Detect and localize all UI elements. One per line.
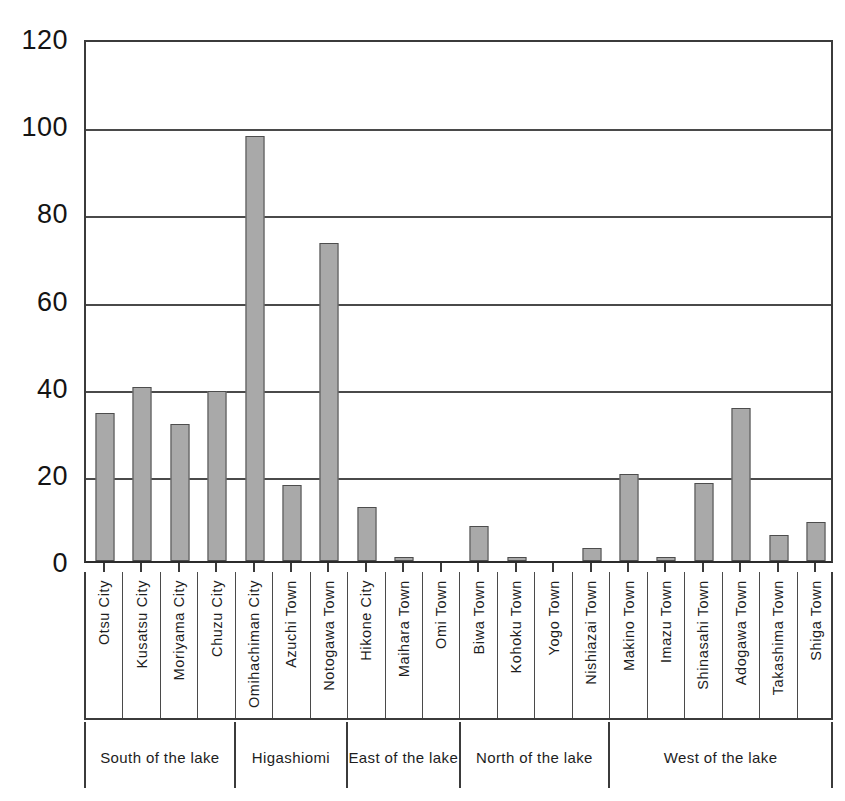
x-axis-category-cell: Hikone City [348, 572, 385, 718]
bar[interactable] [507, 557, 526, 561]
x-tick [365, 563, 367, 572]
bar-series [86, 42, 831, 561]
x-axis-category-labels: Otsu CityKusatsu CityMoriyama CityChuzu … [84, 572, 833, 720]
x-axis-category-cell: Chuzu City [198, 572, 235, 718]
x-axis-category-label: Maihara Town [396, 580, 412, 677]
x-axis-category-cell: Imazu Town [648, 572, 685, 718]
x-axis-category-cell: Notogawa Town [311, 572, 348, 718]
y-tick-label: 120 [21, 27, 68, 54]
bar-slot [461, 42, 498, 561]
x-axis-category-cell: Omihachiman City [236, 572, 273, 718]
x-axis-category-cell: Omi Town [423, 572, 460, 718]
x-axis-group-label: North of the lake [461, 749, 609, 766]
x-axis-category-label: Yogo Town [546, 580, 562, 656]
bar-slot [161, 42, 198, 561]
bar[interactable] [245, 136, 264, 561]
x-axis-category-label: Adogawa Town [733, 580, 749, 685]
chart-figure: 020406080100120 Otsu CityKusatsu CityMor… [0, 0, 845, 801]
x-axis-category-label: Biwa Town [471, 580, 487, 654]
x-axis-group-labels: South of the lakeHigashiomiEast of the l… [84, 722, 833, 788]
bar-slot [648, 42, 685, 561]
bar-slot [198, 42, 235, 561]
x-axis-category-label: Shinasahi Town [695, 580, 711, 690]
x-axis-category-label: Chuzu City [209, 580, 225, 657]
x-axis-category-label: Moriyama City [171, 580, 187, 680]
bar[interactable] [357, 507, 376, 561]
x-tick [140, 563, 142, 572]
x-axis-category-label: Takashima Town [770, 580, 786, 695]
x-axis-category-label: Shiga Town [808, 580, 824, 661]
bar-slot [610, 42, 647, 561]
bar[interactable] [657, 557, 676, 561]
bar-slot [386, 42, 423, 561]
x-tick [215, 563, 217, 572]
y-tick-label: 60 [37, 288, 68, 315]
x-tick [627, 563, 629, 572]
x-tick [702, 563, 704, 572]
x-axis-category-label: Nishiazai Town [583, 580, 599, 685]
x-tick [664, 563, 666, 572]
x-axis-category-cell: Takashima Town [760, 572, 797, 718]
x-axis-category-cell: Adogawa Town [723, 572, 760, 718]
bar-slot [798, 42, 835, 561]
x-axis-category-label: Omihachiman City [246, 580, 262, 708]
y-tick-label: 0 [52, 550, 68, 577]
x-axis-category-cell: Shiga Town [798, 572, 835, 718]
x-axis-category-cell: Kohoku Town [498, 572, 535, 718]
bar[interactable] [732, 408, 751, 561]
bar[interactable] [395, 557, 414, 561]
y-axis: 020406080100120 [0, 0, 78, 801]
y-tick-label: 20 [37, 462, 68, 489]
bar-slot [86, 42, 123, 561]
bar[interactable] [620, 474, 639, 561]
y-tick-label: 80 [37, 201, 68, 228]
x-axis-category-cell: Yogo Town [535, 572, 572, 718]
x-tick [402, 563, 404, 572]
x-axis-category-cell: Azuchi Town [273, 572, 310, 718]
x-axis-category-cell: Biwa Town [461, 572, 498, 718]
bar[interactable] [133, 387, 152, 561]
x-tick [515, 563, 517, 572]
x-tick [327, 563, 329, 572]
bar[interactable] [95, 413, 114, 561]
bar-slot [273, 42, 310, 561]
bar[interactable] [582, 548, 601, 561]
x-tick [777, 563, 779, 572]
bar-slot [685, 42, 722, 561]
bar[interactable] [807, 522, 826, 561]
x-tick [552, 563, 554, 572]
x-tick [103, 563, 105, 572]
x-axis-group-label: East of the lake [348, 749, 458, 766]
x-axis-category-cell: Makino Town [610, 572, 647, 718]
x-axis-category-label: Notogawa Town [321, 580, 337, 691]
x-tick [814, 563, 816, 572]
x-axis-group-cell: South of the lake [84, 722, 234, 788]
x-axis-category-label: Kohoku Town [508, 580, 524, 673]
bar[interactable] [470, 526, 489, 561]
x-tick [290, 563, 292, 572]
x-axis-category-label: Imazu Town [658, 580, 674, 663]
y-tick-label: 100 [21, 114, 68, 141]
bar-slot [123, 42, 160, 561]
x-axis-group-cell: North of the lake [459, 722, 609, 788]
bar-slot [535, 42, 572, 561]
bar[interactable] [694, 483, 713, 561]
bar[interactable] [282, 485, 301, 561]
plot-area [84, 40, 833, 563]
x-axis-category-cell: Moriyama City [161, 572, 198, 718]
x-axis-group-cell: Higashiomi [234, 722, 346, 788]
bar[interactable] [320, 243, 339, 561]
bar-slot [723, 42, 760, 561]
x-axis-category-label: Otsu City [96, 580, 112, 645]
bar-slot [236, 42, 273, 561]
bar-slot [423, 42, 460, 561]
bar[interactable] [208, 391, 227, 561]
x-axis-group-label: West of the lake [610, 749, 831, 766]
x-axis-group-label: Higashiomi [236, 749, 346, 766]
x-tick [590, 563, 592, 572]
x-axis-category-label: Omi Town [433, 580, 449, 649]
x-axis-category-cell: Otsu City [86, 572, 123, 718]
bar[interactable] [769, 535, 788, 561]
bar-slot [348, 42, 385, 561]
bar[interactable] [170, 424, 189, 561]
